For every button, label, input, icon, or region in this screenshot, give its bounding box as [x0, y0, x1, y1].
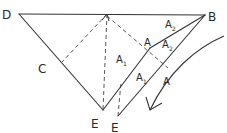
- arrowhead-icon: [146, 97, 162, 110]
- svg-text:1: 1: [143, 78, 147, 85]
- line-D-E1: [19, 14, 103, 110]
- dashed-apex-C: [62, 14, 107, 62]
- dashed-apex-E1: [103, 14, 107, 110]
- svg-text:2: 2: [172, 25, 176, 32]
- region-label-A2-lower: A 2: [162, 39, 173, 52]
- svg-text:A: A: [165, 19, 172, 30]
- diagram-svg: D B C A A E E A 1 A 1 A 2 A 2: [0, 0, 227, 133]
- svg-text:A: A: [136, 72, 143, 83]
- dashed-E2-up: [118, 82, 121, 116]
- label-E1: E: [91, 117, 99, 131]
- region-label-A1-lower: A 1: [136, 72, 147, 85]
- line-E2-B: [118, 15, 205, 116]
- line-D-B: [19, 14, 205, 15]
- label-D: D: [2, 8, 11, 22]
- svg-text:1: 1: [123, 60, 127, 67]
- svg-text:2: 2: [169, 45, 173, 52]
- apex-arrowhead-icon: [102, 14, 109, 21]
- label-C: C: [38, 62, 46, 76]
- region-label-A1-upper: A 1: [116, 54, 127, 67]
- svg-text:A: A: [116, 54, 123, 65]
- line-A-B: [150, 15, 205, 48]
- label-A-low: A: [163, 76, 170, 87]
- svg-text:A: A: [162, 39, 169, 50]
- region-label-A2-upper: A 2: [165, 19, 176, 32]
- label-A-top: A: [144, 37, 151, 48]
- label-B: B: [208, 10, 216, 24]
- diagram-canvas: D B C A A E E A 1 A 1 A 2 A 2: [0, 0, 227, 133]
- label-E2: E: [111, 121, 119, 133]
